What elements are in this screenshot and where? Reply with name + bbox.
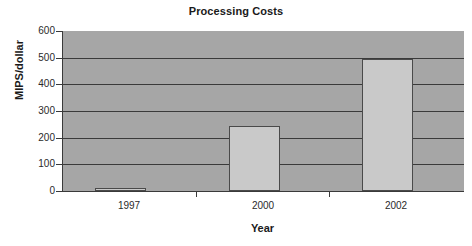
y-axis-tick-label: 400: [24, 79, 55, 89]
y-axis-tick-label: 100: [24, 159, 55, 169]
x-axis-category-tick: [196, 192, 197, 197]
bar-chart: Processing Costs MIPS/dollar 01002003004…: [0, 0, 472, 246]
y-axis-tick-labels: 0100200300400500600: [24, 0, 55, 246]
x-axis-line: [62, 191, 464, 192]
x-axis-title: Year: [62, 222, 463, 234]
plot-area: [62, 31, 464, 192]
y-axis-tick-label: 500: [24, 53, 55, 63]
x-axis-category-label: 2002: [329, 200, 463, 211]
y-axis-tick-label: 200: [24, 133, 55, 143]
x-axis-category-label: 2000: [196, 200, 330, 211]
y-axis-tick-label: 600: [24, 26, 55, 36]
chart-title: Processing Costs: [0, 5, 472, 17]
bar: [362, 59, 413, 191]
x-axis-category-label: 1997: [62, 200, 196, 211]
bar: [229, 126, 280, 191]
y-axis-tick-label: 0: [24, 186, 55, 196]
x-axis-category-tick: [329, 192, 330, 197]
y-axis-tick-label: 300: [24, 106, 55, 116]
